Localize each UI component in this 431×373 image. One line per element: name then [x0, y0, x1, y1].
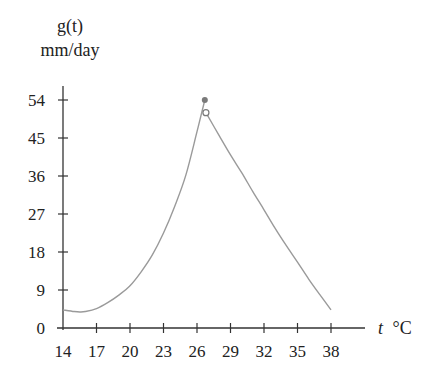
y-tick-label: 27	[28, 205, 46, 224]
x-tick-label: 32	[256, 342, 273, 361]
open-circle-marker	[203, 110, 209, 116]
x-tick-label: 38	[323, 342, 340, 361]
y-tick-label: 18	[28, 243, 45, 262]
y-tick-label: 36	[28, 167, 45, 186]
y-tick-label: 54	[28, 91, 46, 110]
filled-dot-marker	[202, 97, 208, 103]
x-axis-variable: t	[378, 318, 384, 338]
x-tick-label: 35	[289, 342, 306, 361]
x-axis-title: t °C	[378, 318, 412, 338]
y-tick-label: 45	[28, 129, 45, 148]
g-curve	[63, 100, 205, 312]
x-tick-label: 20	[122, 342, 139, 361]
chart-canvas: 091827364554141720232629323538 t °C	[0, 0, 431, 373]
x-tick-label: 23	[155, 342, 172, 361]
g-curve	[206, 113, 331, 310]
axes: 091827364554141720232629323538	[28, 86, 365, 361]
x-tick-label: 29	[222, 342, 239, 361]
y-tick-label: 9	[37, 281, 46, 300]
x-tick-label: 26	[189, 342, 206, 361]
y-tick-label: 0	[37, 319, 46, 338]
x-axis-units: °C	[393, 318, 412, 338]
curves	[63, 100, 331, 312]
x-tick-label: 17	[88, 342, 106, 361]
x-tick-label: 14	[55, 342, 73, 361]
